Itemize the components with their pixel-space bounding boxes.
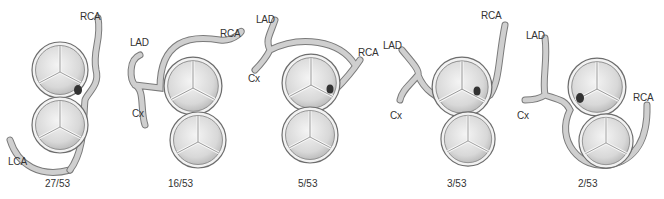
panel-3: LAD RCA Cx 5/53 xyxy=(240,0,380,199)
label-cx: Cx xyxy=(248,73,260,84)
label-lad: LAD xyxy=(130,37,149,48)
panel-1: RCA LCA 27/53 xyxy=(0,0,125,199)
caption-panel-2: 16/53 xyxy=(168,178,193,189)
panel-4: LAD RCA Cx 3/53 xyxy=(380,0,520,199)
label-cx: Cx xyxy=(132,108,144,119)
label-cx: Cx xyxy=(390,110,402,121)
label-lad: LAD xyxy=(256,14,275,25)
label-rca: RCA xyxy=(481,10,502,21)
panel-2: LAD RCA Cx 16/53 xyxy=(120,0,260,199)
coronary-diagram-4 xyxy=(380,0,520,199)
label-lad: LAD xyxy=(383,40,402,51)
panel-5: LAD RCA Cx 2/53 xyxy=(520,0,664,199)
label-rca: RCA xyxy=(80,11,101,22)
caption-panel-5: 2/53 xyxy=(578,178,597,189)
caption-panel-1: 27/53 xyxy=(45,178,70,189)
coronary-diagram-1 xyxy=(0,0,125,199)
coronary-diagram-3 xyxy=(240,0,380,199)
label-rca: RCA xyxy=(358,47,379,58)
label-lca: LCA xyxy=(8,156,27,167)
label-cx: Cx xyxy=(517,110,529,121)
caption-panel-3: 5/53 xyxy=(298,178,317,189)
label-lad: LAD xyxy=(526,30,545,41)
label-rca: RCA xyxy=(220,28,241,39)
caption-panel-4: 3/53 xyxy=(447,178,466,189)
label-rca: RCA xyxy=(633,92,654,103)
